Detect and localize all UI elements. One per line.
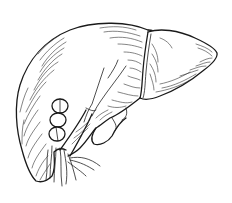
liver-drawing [0, 0, 232, 203]
liver-illustration [0, 0, 232, 203]
left-lobe-outline [140, 30, 217, 99]
lobe-bump [112, 118, 116, 132]
caudate-lobe [92, 118, 126, 145]
gallbladder-mid [50, 113, 66, 127]
